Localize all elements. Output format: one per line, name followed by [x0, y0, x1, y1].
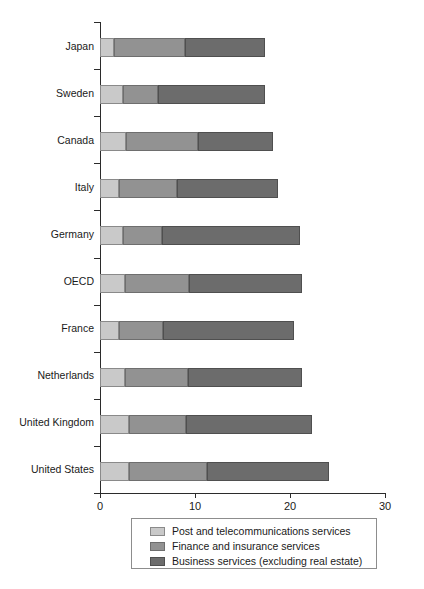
bar-segment [123, 85, 158, 104]
bar-segment [100, 321, 119, 340]
category-label: France [61, 322, 94, 334]
bar-segment [158, 85, 265, 104]
bar-segment [100, 85, 123, 104]
y-axis-tick [94, 116, 100, 117]
bar-japan [100, 38, 265, 57]
bar-segment [198, 132, 273, 151]
y-axis-tick [94, 352, 100, 353]
category-label: United Kingdom [19, 416, 94, 428]
x-axis-line [100, 493, 386, 494]
bar-italy [100, 179, 278, 198]
x-axis-tick [195, 493, 196, 498]
category-label: Japan [65, 40, 94, 52]
bar-segment [123, 226, 162, 245]
bar-segment [188, 368, 302, 387]
x-axis-tick [290, 493, 291, 498]
plot-area: 0102030 JapanSwedenCanadaItalyGermanyOEC… [0, 0, 424, 589]
bar-segment [185, 38, 266, 57]
bar-segment [100, 38, 114, 57]
bar-france [100, 321, 294, 340]
category-label: Germany [51, 228, 94, 240]
y-axis-tick [94, 399, 100, 400]
bar-segment [129, 462, 207, 481]
bar-segment [163, 321, 294, 340]
bar-oecd [100, 274, 302, 293]
bar-sweden [100, 85, 265, 104]
bar-canada [100, 132, 273, 151]
legend-item-post-telecom: Post and telecommunications services [150, 524, 376, 538]
bar-segment [125, 368, 189, 387]
bar-segment [207, 462, 329, 481]
bar-segment [119, 179, 177, 198]
category-label: Sweden [56, 87, 94, 99]
y-axis-tick [94, 69, 100, 70]
legend-label-business-services: Business services (excluding real estate… [172, 555, 362, 567]
bar-united-kingdom [100, 415, 312, 434]
legend-label-finance-insurance: Finance and insurance services [172, 540, 320, 552]
y-axis-tick [94, 163, 100, 164]
bar-segment [126, 132, 198, 151]
x-axis-tick-label: 10 [175, 500, 215, 513]
x-axis-tick-label: 0 [80, 500, 120, 513]
bar-segment [162, 226, 300, 245]
legend-swatch-business-services [150, 557, 165, 566]
bar-segment [125, 274, 190, 293]
bar-segment [189, 274, 302, 293]
x-axis-tick-label: 20 [270, 500, 310, 513]
y-axis-tick [94, 258, 100, 259]
x-axis-tick [100, 493, 101, 498]
legend-swatch-finance-insurance [150, 542, 165, 551]
bar-segment [177, 179, 278, 198]
stacked-bar-chart: 0102030 JapanSwedenCanadaItalyGermanyOEC… [0, 0, 424, 589]
legend-swatch-post-telecom [150, 527, 165, 536]
bar-segment [114, 38, 184, 57]
bar-segment [119, 321, 163, 340]
category-label: OECD [64, 275, 94, 287]
x-axis-tick-label: 30 [365, 500, 405, 513]
bar-segment [100, 132, 126, 151]
y-axis-tick [94, 210, 100, 211]
bar-segment [100, 226, 123, 245]
chart-legend: Post and telecommunications services Fin… [131, 518, 377, 569]
y-axis-tick [94, 305, 100, 306]
legend-item-finance-insurance: Finance and insurance services [150, 539, 376, 553]
bar-segment [100, 462, 129, 481]
bar-segment [100, 415, 129, 434]
bar-netherlands [100, 368, 302, 387]
bar-segment [100, 368, 125, 387]
category-label: Netherlands [37, 369, 94, 381]
y-axis-tick [94, 22, 100, 23]
legend-label-post-telecom: Post and telecommunications services [172, 525, 351, 537]
x-axis-tick [385, 493, 386, 498]
bar-segment [100, 274, 125, 293]
bar-united-states [100, 462, 329, 481]
bar-segment [186, 415, 311, 434]
category-label: Italy [75, 181, 94, 193]
category-label: Canada [57, 134, 94, 146]
legend-item-business-services: Business services (excluding real estate… [150, 554, 376, 568]
bar-segment [100, 179, 119, 198]
category-label: United States [31, 463, 94, 475]
bar-germany [100, 226, 300, 245]
bar-segment [129, 415, 187, 434]
y-axis-tick [94, 446, 100, 447]
